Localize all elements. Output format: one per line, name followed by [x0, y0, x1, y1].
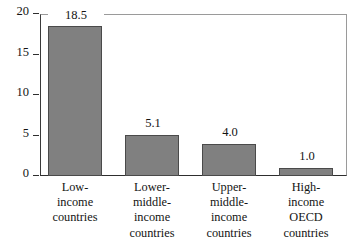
- y-tick-label: 10: [17, 86, 30, 98]
- value-label-upper-middle-income: 4.0: [202, 126, 258, 139]
- value-label-lower-middle-income: 5.1: [125, 117, 181, 130]
- bar-lower-middle-income: [125, 135, 179, 176]
- category-label-upper-middle-income: Upper- middle- income countries: [191, 180, 267, 241]
- category-label-lower-middle-income: Lower- middle- income countries: [114, 180, 190, 241]
- bar-upper-middle-income: [202, 144, 256, 176]
- y-tick-mark: [33, 175, 39, 176]
- y-tick-label: 0: [23, 167, 29, 179]
- y-tick-label: 5: [23, 127, 29, 139]
- value-label-high-income-oecd: 1.0: [279, 150, 335, 163]
- y-tick-label: 15: [17, 46, 30, 58]
- y-tick-label: 20: [17, 5, 30, 17]
- y-tick-mark: [33, 13, 39, 14]
- value-label-low-income: 18.5: [48, 9, 104, 22]
- y-tick-mark: [33, 135, 39, 136]
- bar-low-income: [48, 26, 102, 176]
- y-tick-mark: [33, 94, 39, 95]
- bar-chart: 0 5 10 15 20 18.5 5.1 4.0 1.0 Low- incom…: [0, 0, 362, 247]
- bar-high-income-oecd: [279, 168, 333, 176]
- category-label-high-income-oecd: High- income OECD countries: [268, 180, 344, 241]
- y-tick-mark: [33, 54, 39, 55]
- category-label-low-income: Low- income countries: [37, 180, 113, 226]
